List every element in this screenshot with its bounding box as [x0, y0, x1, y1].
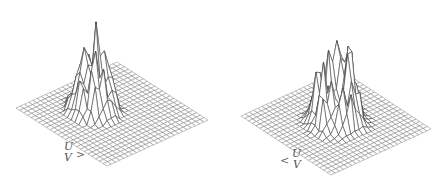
- direction-arrow-right-icon: >: [76, 149, 85, 160]
- left-surface-plot: U V >: [0, 0, 222, 182]
- right-surface-plot: U < V: [222, 0, 445, 182]
- v-axis-label-right: V: [293, 159, 301, 170]
- direction-arrow-left-icon: <: [280, 155, 289, 166]
- v-axis-label-left: V: [64, 152, 72, 163]
- figure: U V > U < V: [0, 0, 445, 182]
